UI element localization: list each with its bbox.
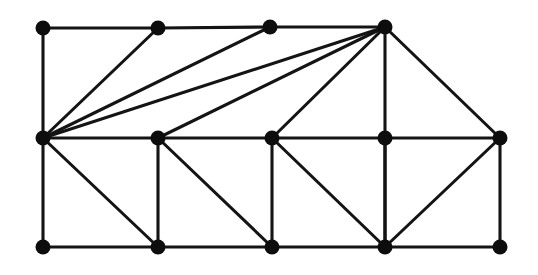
graph-vertex-b4 xyxy=(493,240,508,255)
graph-vertex-b2 xyxy=(265,240,280,255)
graph-vertex-m2 xyxy=(265,131,280,146)
graph-edge-m1-b2 xyxy=(158,138,272,247)
graph-edge-t1-t2 xyxy=(158,27,270,28)
graph-figure xyxy=(0,0,538,275)
graph-vertex-t0 xyxy=(36,21,51,36)
graph-vertex-b1 xyxy=(151,240,166,255)
graph-vertex-b3 xyxy=(378,240,393,255)
graph-vertex-b0 xyxy=(36,240,51,255)
graph-edge-m2-t3 xyxy=(272,27,385,138)
graph-vertex-m3 xyxy=(378,131,393,146)
graph-edge-t3-m4 xyxy=(385,27,500,138)
graph-vertex-m0 xyxy=(36,131,51,146)
graph-edge-m0-b1 xyxy=(43,138,158,247)
graph-edge-m0-t3 xyxy=(43,27,385,138)
graph-vertex-t3 xyxy=(378,20,393,35)
graph-vertex-m4 xyxy=(493,131,508,146)
graph-edge-m2-b3 xyxy=(272,138,385,247)
graph-edge-m4-b3 xyxy=(385,138,500,247)
graph-edge-m0-t1 xyxy=(43,28,158,138)
graph-vertex-m1 xyxy=(151,131,166,146)
graph-edge-m0-t2 xyxy=(43,27,270,138)
graph-vertex-t1 xyxy=(151,21,166,36)
graph-canvas xyxy=(0,0,538,275)
graph-edge-m1-t3 xyxy=(158,27,385,138)
graph-vertex-t2 xyxy=(263,20,278,35)
